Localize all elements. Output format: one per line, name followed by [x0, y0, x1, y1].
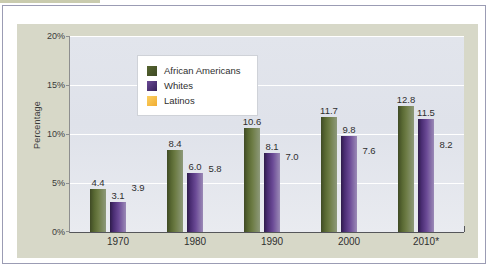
x-tick-label: 1980 [184, 236, 206, 247]
bar-value-label: 11.7 [320, 105, 338, 116]
bar-2000-whites[interactable]: 9.8 [341, 136, 357, 232]
y-axis-tick-labels: 20% 15% 10% 5% 0% [27, 24, 65, 258]
bar-group-2000: 11.7 9.8 7.6 [319, 36, 381, 232]
bar-value-label: 12.8 [397, 94, 416, 105]
axis-end-tick [464, 226, 465, 232]
chart-card: Percentage 20% 15% 10% 5% 0% [17, 24, 478, 258]
legend-item-whites[interactable]: Whites [147, 78, 241, 93]
bar-value-label: 10.6 [243, 116, 262, 127]
bar-group-2010: 12.8 11.5 8.2 [396, 36, 458, 232]
x-tick-label: 1970 [107, 236, 129, 247]
bar-1980-latinos[interactable]: 5.8 [207, 175, 223, 232]
legend-item-label: Latinos [164, 95, 195, 106]
bar-1970-whites[interactable]: 3.1 [110, 202, 126, 232]
bar-value-label: 8.2 [439, 139, 452, 150]
bar-2010-latinos[interactable]: 8.2 [438, 151, 454, 232]
bar-1990-latinos[interactable]: 7.0 [284, 163, 300, 232]
bar-value-label: 3.9 [131, 182, 144, 193]
y-tick-label: 10% [31, 129, 65, 139]
bar-2000-latinos[interactable]: 7.6 [361, 157, 377, 232]
bar-2000-african-americans[interactable]: 11.7 [321, 117, 337, 232]
top-page-tab-strip [0, 0, 100, 3]
y-tick-mark [66, 85, 70, 86]
bar-2010-african-americans[interactable]: 12.8 [398, 106, 414, 232]
bar-value-label: 9.8 [342, 124, 355, 135]
legend-item-label: African Americans [164, 65, 241, 76]
purple-swatch-icon [147, 81, 157, 91]
bar-1980-whites[interactable]: 6.0 [187, 173, 203, 232]
legend-item-label: Whites [164, 80, 193, 91]
y-tick-label: 5% [31, 178, 65, 188]
bar-value-label: 4.4 [91, 177, 104, 188]
x-axis-tick-labels: 1970 1980 1990 2000 2010* [69, 236, 463, 256]
chart-legend: African Americans Whites Latinos [138, 56, 257, 115]
x-tick-label: 1990 [261, 236, 283, 247]
y-tick-mark [66, 36, 70, 37]
bar-value-label: 5.8 [208, 163, 221, 174]
y-tick-mark [66, 231, 70, 232]
yellow-swatch-icon [147, 96, 157, 106]
bar-1990-african-americans[interactable]: 10.6 [244, 128, 260, 232]
plot-area: 4.4 3.1 3.9 8.4 6.0 [69, 36, 464, 233]
bar-1990-whites[interactable]: 8.1 [264, 153, 280, 232]
bar-chart-figure: Percentage 20% 15% 10% 5% 0% [17, 24, 478, 258]
y-tick-mark [66, 134, 70, 135]
x-tick-label: 2000 [338, 236, 360, 247]
bar-1970-latinos[interactable]: 3.9 [130, 194, 146, 232]
y-tick-label: 20% [31, 31, 65, 41]
bar-value-label: 3.1 [111, 190, 124, 201]
legend-item-latinos[interactable]: Latinos [147, 93, 241, 108]
legend-item-african-americans[interactable]: African Americans [147, 63, 241, 78]
y-tick-mark [66, 183, 70, 184]
bar-value-label: 6.0 [188, 161, 201, 172]
bar-value-label: 7.6 [362, 145, 375, 156]
x-tick-label: 2010* [413, 236, 439, 247]
bar-value-label: 8.1 [265, 141, 278, 152]
bar-2010-whites[interactable]: 11.5 [418, 119, 434, 232]
page-frame: Percentage 20% 15% 10% 5% 0% [2, 5, 486, 264]
bar-value-label: 7.0 [285, 151, 298, 162]
bar-1970-african-americans[interactable]: 4.4 [90, 189, 106, 232]
bar-value-label: 8.4 [168, 138, 181, 149]
green-swatch-icon [147, 66, 157, 76]
y-tick-label: 0% [31, 227, 65, 237]
bar-1980-african-americans[interactable]: 8.4 [167, 150, 183, 232]
bar-value-label: 11.5 [417, 107, 435, 118]
y-tick-label: 15% [31, 80, 65, 90]
